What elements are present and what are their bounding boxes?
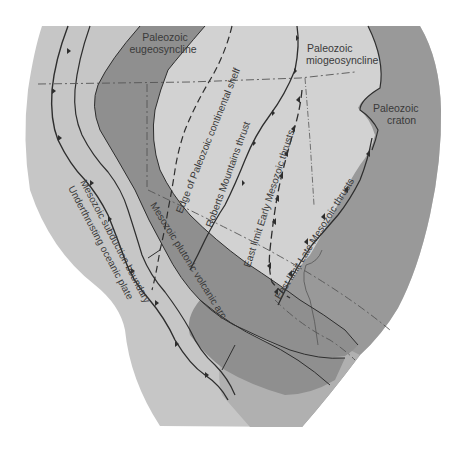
craton-label-2: craton (387, 114, 416, 126)
craton-label-1: Paleozoic (373, 102, 419, 114)
miogeosyncline-label-1: Paleozoic (307, 42, 353, 54)
geologic-map: Paleozoic eugeosyncline Paleozoic miogeo… (0, 0, 452, 453)
miogeosyncline-label-2: miogeosyncline (306, 54, 379, 66)
eugeosyncline-label-1: Paleozoic (142, 31, 188, 43)
eugeosyncline-label-2: eugeosyncline (129, 43, 196, 55)
